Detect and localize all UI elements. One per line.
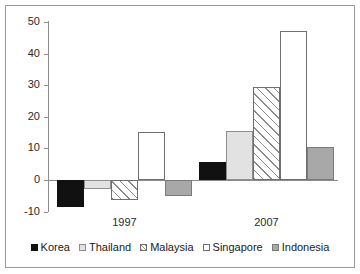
y-tick-mark bbox=[44, 117, 48, 118]
chart-figure: Billions US dollars 50403020100-10 19972… bbox=[0, 0, 360, 274]
x-label-2007: 2007 bbox=[199, 216, 334, 228]
y-tick-mark bbox=[44, 212, 48, 213]
bar-singapore-1997 bbox=[138, 132, 165, 180]
bar-indonesia-1997 bbox=[165, 180, 192, 196]
bar-malaysia-1997 bbox=[111, 180, 138, 200]
legend-swatch-indonesia-icon bbox=[272, 244, 279, 251]
legend-label: Korea bbox=[41, 241, 70, 253]
bar-korea-2007 bbox=[199, 162, 226, 180]
bar-thailand-1997 bbox=[84, 180, 111, 189]
legend-item-indonesia[interactable]: Indonesia bbox=[272, 241, 330, 253]
bar-thailand-2007 bbox=[226, 131, 253, 180]
y-tick-mark bbox=[44, 22, 48, 23]
y-tick-label: 50 bbox=[28, 14, 40, 28]
y-tick-label: 30 bbox=[28, 77, 40, 91]
y-tick-mark bbox=[44, 85, 48, 86]
legend-swatch-korea-icon bbox=[31, 244, 38, 251]
legend-item-thailand[interactable]: Thailand bbox=[79, 241, 131, 253]
y-tick-label: 20 bbox=[28, 109, 40, 123]
y-tick-mark bbox=[44, 54, 48, 55]
y-tick-label: 40 bbox=[28, 46, 40, 60]
legend-swatch-thailand-icon bbox=[79, 244, 86, 251]
bar-malaysia-2007 bbox=[253, 87, 280, 180]
legend-label: Thailand bbox=[89, 241, 131, 253]
bar-singapore-2007 bbox=[280, 31, 307, 180]
y-tick-mark bbox=[44, 180, 48, 181]
legend-item-malaysia[interactable]: Malaysia bbox=[140, 241, 193, 253]
bar-korea-1997 bbox=[57, 180, 84, 207]
legend-swatch-singapore-icon bbox=[203, 244, 210, 251]
chart-legend: KoreaThailandMalaysiaSingaporeIndonesia bbox=[0, 241, 360, 253]
y-tick-mark bbox=[44, 148, 48, 149]
bar-indonesia-2007 bbox=[307, 147, 334, 180]
y-tick-label: -10 bbox=[24, 204, 40, 218]
legend-item-korea[interactable]: Korea bbox=[31, 241, 70, 253]
y-tick-label: 10 bbox=[28, 140, 40, 154]
legend-item-singapore[interactable]: Singapore bbox=[203, 241, 263, 253]
legend-label: Singapore bbox=[213, 241, 263, 253]
legend-label: Malaysia bbox=[150, 241, 193, 253]
legend-label: Indonesia bbox=[282, 241, 330, 253]
y-tick-label: 0 bbox=[34, 172, 40, 186]
legend-swatch-malaysia-icon bbox=[140, 244, 147, 251]
y-axis-line bbox=[48, 21, 49, 212]
x-label-1997: 1997 bbox=[57, 216, 192, 228]
